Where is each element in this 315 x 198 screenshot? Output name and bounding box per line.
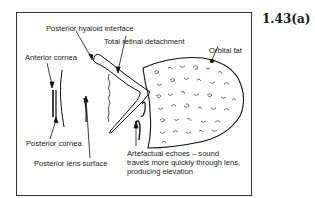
label-orbital-fat: Orbital fat	[209, 47, 242, 55]
label-artefact-line3: producing elevation	[127, 168, 193, 176]
figure-number: 1.43(a)	[262, 12, 310, 26]
label-posterior-cornea: Posterior cornea	[26, 140, 82, 148]
ultrasound-diagram: 1.43(a) Posterior hyaloid interface Tota…	[0, 0, 315, 198]
label-total-retinal-detachment: Total retinal detachment	[104, 38, 185, 46]
label-posterior-hyaloid: Posterior hyaloid interface	[46, 25, 134, 33]
vitreous-wavy-line	[108, 74, 110, 122]
label-posterior-lens-surface: Posterior lens surface	[34, 160, 107, 168]
label-artefact-line1: Artefactual echoes – sound	[127, 150, 219, 158]
artefact-echoes	[136, 102, 145, 140]
cornea-echoes	[53, 70, 64, 127]
label-artefact-line2: travels more quickly through lens,	[127, 159, 240, 167]
label-anterior-cornea: Anterior cornea	[25, 54, 77, 62]
fat-texture	[154, 66, 236, 144]
retinal-detachment	[93, 54, 150, 133]
